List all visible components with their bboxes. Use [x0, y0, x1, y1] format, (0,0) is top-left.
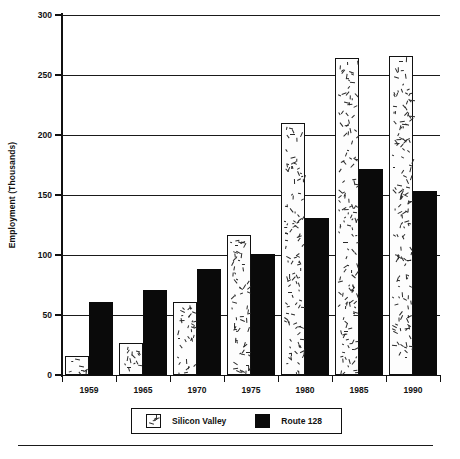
speckle-mark	[186, 359, 187, 364]
speckle-mark	[402, 104, 406, 108]
speckle-mark	[232, 301, 237, 303]
speckle-mark	[404, 226, 406, 229]
speckle-mark	[402, 148, 405, 151]
speckle-mark	[343, 264, 348, 268]
bar-silicon-valley-1975	[227, 235, 251, 375]
speckle-mark	[348, 328, 352, 330]
speckle-mark	[240, 293, 243, 295]
speckle-mark	[398, 297, 400, 299]
speckle-mark	[234, 272, 236, 275]
speckle-mark	[409, 285, 412, 287]
speckle-mark	[178, 362, 181, 365]
speckle-mark	[338, 94, 342, 96]
speckle-mark	[355, 93, 360, 98]
speckle-mark	[353, 105, 357, 108]
speckle-mark	[301, 176, 303, 178]
speckle-mark	[348, 119, 350, 123]
speckle-mark	[285, 245, 287, 249]
speckle-mark	[240, 316, 244, 317]
speckle-mark	[292, 222, 294, 223]
speckle-mark	[295, 212, 296, 214]
speckle-mark	[339, 168, 342, 172]
speckle-mark	[245, 370, 246, 374]
speckle-mark	[409, 247, 412, 251]
gridline-150	[62, 195, 440, 196]
speckle-mark	[405, 356, 408, 357]
bar-route-128-1965	[143, 290, 167, 375]
speckle-mark	[400, 328, 402, 331]
speckle-mark	[406, 318, 409, 323]
chart-legend: Silicon Valley Route 128	[131, 408, 342, 434]
speckle-mark	[406, 179, 409, 184]
speckle-mark	[351, 227, 353, 230]
speckle-mark	[348, 213, 349, 215]
speckle-mark	[396, 234, 398, 237]
speckle-mark	[184, 372, 188, 374]
x-tick-label-1990: 1990	[404, 385, 423, 395]
speckle-mark	[408, 93, 410, 96]
y-tick-100	[55, 254, 61, 255]
speckle-mark	[243, 243, 247, 248]
speckle-mark	[292, 196, 293, 200]
speckle-mark	[410, 175, 413, 180]
speckle-mark	[193, 335, 195, 339]
speckle-mark	[131, 355, 135, 359]
x-tick-label-1980: 1980	[296, 385, 315, 395]
speckle-mark	[286, 363, 288, 364]
speckle-mark	[229, 241, 232, 243]
speckle-mark	[233, 362, 238, 366]
speckle-mark	[240, 319, 245, 322]
speckle-mark	[71, 361, 73, 362]
speckle-mark	[407, 150, 410, 153]
speckle-mark	[345, 256, 347, 259]
speckle-mark	[230, 296, 235, 301]
speckle-mark	[401, 170, 404, 174]
speckle-mark	[351, 360, 355, 365]
speckle-mark	[294, 179, 295, 184]
speckle-mark	[295, 303, 298, 306]
speckle-mark	[351, 141, 353, 145]
speckle-mark	[149, 422, 154, 425]
speckle-mark	[355, 372, 358, 373]
x-tick-label-1975: 1975	[242, 385, 261, 395]
speckle-mark	[289, 338, 292, 341]
x-tick-label-1959: 1959	[80, 385, 99, 395]
speckle-mark	[235, 245, 238, 246]
speckle-mark	[395, 111, 396, 114]
y-tick-label-50: 50	[43, 310, 52, 320]
speckle-mark	[177, 331, 179, 336]
speckle-mark	[297, 370, 300, 372]
speckle-mark	[75, 358, 81, 360]
x-tick-4	[278, 375, 279, 382]
bar-route-128-1970	[197, 269, 221, 375]
speckle-mark	[285, 302, 288, 304]
speckle-mark	[289, 273, 290, 278]
y-tick-200	[55, 134, 61, 135]
speckle-mark	[342, 359, 343, 363]
speckle-mark	[401, 215, 403, 219]
speckle-mark	[338, 209, 340, 212]
speckle-mark	[347, 131, 348, 136]
x-tick-5	[332, 375, 333, 382]
x-tick-label-1970: 1970	[188, 385, 207, 395]
speckle-mark	[287, 260, 288, 262]
speckle-mark	[297, 362, 300, 365]
speckle-mark	[393, 331, 398, 334]
speckle-mark	[124, 363, 126, 365]
speckle-mark	[300, 268, 301, 271]
speckle-mark	[398, 286, 400, 288]
speckle-mark	[247, 327, 250, 332]
y-tick-label-150: 150	[38, 190, 52, 200]
speckle-mark	[395, 323, 398, 325]
speckle-mark	[285, 149, 288, 152]
speckle-mark	[185, 366, 190, 370]
solid-black-swatch-icon	[255, 414, 270, 428]
x-tick-2	[170, 375, 171, 382]
x-tick-1	[116, 375, 117, 382]
speckle-mark	[393, 167, 395, 168]
bar-route-128-1959	[89, 302, 113, 375]
speckle-mark	[300, 132, 303, 137]
speckle-mark	[287, 320, 290, 324]
speckle-mark	[286, 256, 291, 259]
speckle-mark	[349, 128, 351, 133]
